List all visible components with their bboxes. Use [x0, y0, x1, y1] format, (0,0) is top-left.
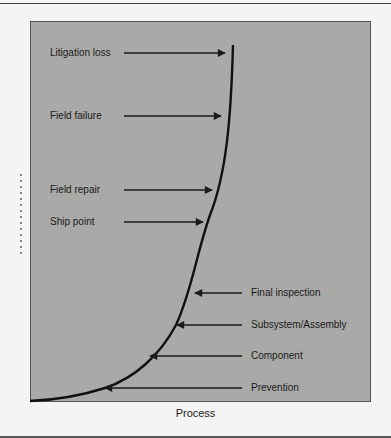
x-axis-label: Process: [0, 407, 391, 419]
label-subsystem-assembly: Subsystem/Assembly: [251, 319, 347, 331]
label-prevention: Prevention: [251, 382, 299, 394]
label-final-inspection: Final inspection: [251, 287, 320, 299]
label-field-repair: Field repair: [50, 184, 100, 196]
label-field-failure: Field failure: [50, 110, 102, 122]
label-litigation-loss: Litigation loss: [50, 47, 111, 59]
label-component: Component: [251, 350, 303, 362]
label-ship-point: Ship point: [50, 216, 94, 228]
